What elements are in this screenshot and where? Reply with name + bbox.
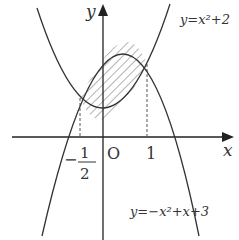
- tick-label-one: 1: [146, 144, 156, 163]
- diagram: y x O 1 − 1 2 y=x²+2 y=−x²+x+3: [0, 0, 239, 240]
- origin-label: O: [107, 144, 120, 163]
- x-axis-label: x: [223, 140, 233, 160]
- curve2-label: y=−x²+x+3: [129, 204, 209, 219]
- curve1-label: y=x²+2: [179, 12, 230, 27]
- y-axis-label: y: [85, 1, 96, 21]
- y-axis-arrow-icon: [98, 4, 108, 16]
- tick-neg-half-den: 2: [80, 165, 90, 183]
- graph: y x O 1 − 1 2 y=x²+2 y=−x²+x+3: [0, 0, 239, 240]
- tick-neg-half-num: 1: [80, 144, 90, 162]
- tick-neg-sign: −: [64, 150, 77, 169]
